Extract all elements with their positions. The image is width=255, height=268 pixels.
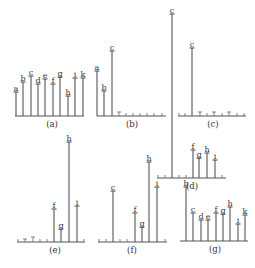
stem-i: i <box>155 179 160 243</box>
stem-f: f <box>191 142 196 179</box>
stem-label: d <box>35 76 40 85</box>
panel-f: cfghi(f) <box>98 154 167 256</box>
stem-label: h <box>66 134 71 143</box>
stem-label: d <box>198 212 203 221</box>
stem-label: g <box>58 221 63 230</box>
panel-caption: (e) <box>49 245 61 255</box>
stem-b: b <box>20 74 25 117</box>
stem-k: k <box>243 207 248 242</box>
stem-h: h <box>227 199 232 242</box>
panel-caption: (g) <box>209 244 221 254</box>
stem-label: h <box>146 154 151 163</box>
stem-c: c <box>191 205 196 242</box>
stem-label: i <box>156 179 159 188</box>
panel-caption: (f) <box>127 245 137 255</box>
stem-i: i <box>75 198 80 243</box>
stem-label: a <box>14 84 19 93</box>
stem-label: k <box>243 207 248 216</box>
stem-label: k <box>81 70 86 79</box>
stem-label: i <box>237 216 240 225</box>
stem-label: g <box>139 219 144 228</box>
stem-label: a <box>95 63 100 72</box>
stem-label: f <box>52 76 56 85</box>
stem-a: a <box>14 84 19 117</box>
stem-d: d <box>35 76 40 117</box>
stem-label: c <box>170 6 175 15</box>
stem-h: h <box>204 145 209 179</box>
stem-f: f <box>51 76 56 117</box>
stem-label: i <box>74 70 77 79</box>
panel-caption: (c) <box>207 119 218 129</box>
panel-caption: (b) <box>126 119 138 129</box>
stem-label: f <box>215 205 219 214</box>
stem-label: e <box>43 71 48 80</box>
stem-label: f <box>134 205 138 214</box>
stem-plots-svg: abcdefghik(a)abc(b)c(c)cfghi(d)fghi(e)cf… <box>0 0 255 268</box>
stem-i: i <box>73 70 78 117</box>
stem-c: c <box>170 6 175 179</box>
stem-label: g <box>220 206 225 215</box>
panel-c: c(c) <box>178 40 246 130</box>
stem-label: e <box>206 212 211 221</box>
stem-label: g <box>196 150 201 159</box>
stem-c: c <box>29 68 34 117</box>
stem-h: h <box>66 134 71 243</box>
stem-i: i <box>213 152 218 179</box>
stem-a: a <box>95 63 100 117</box>
stem-label: c <box>190 40 195 49</box>
panel-b: abc(b) <box>95 43 167 130</box>
stem-label: h <box>65 88 70 97</box>
stem-label: f <box>53 201 57 210</box>
stem-c: c <box>190 40 195 117</box>
stem-i: i <box>236 216 241 242</box>
stem-label: b <box>183 179 188 188</box>
stem-b: b <box>101 83 106 117</box>
stem-g: g <box>58 221 63 243</box>
stem-c: c <box>110 43 115 117</box>
stem-g: g <box>196 150 201 179</box>
panel-e: fghi(e) <box>17 134 85 256</box>
stem-label: c <box>110 43 115 52</box>
stem-e: e <box>206 212 211 242</box>
panel-caption: (a) <box>46 119 58 129</box>
stem-g: g <box>57 69 62 117</box>
stem-d: d <box>198 212 203 242</box>
stem-f: f <box>214 205 219 242</box>
stem-label: i <box>76 198 79 207</box>
stem-h: h <box>65 88 70 117</box>
stem-f: f <box>133 205 138 243</box>
stem-f: f <box>52 201 57 243</box>
stem-label: i <box>214 152 217 161</box>
stem-label: f <box>192 142 196 151</box>
stem-label: c <box>29 68 34 77</box>
panel-a: abcdefghik(a) <box>14 68 86 130</box>
stem-diagram-figure: abcdefghik(a)abc(b)c(c)cfghi(d)fghi(e)cf… <box>0 0 255 268</box>
stem-label: c <box>191 205 196 214</box>
stem-label: b <box>20 74 25 83</box>
stem-label: g <box>57 69 62 78</box>
stem-label: h <box>227 199 232 208</box>
stem-k: k <box>81 70 86 117</box>
stem-h: h <box>146 154 151 243</box>
stem-label: b <box>101 83 106 92</box>
stem-g: g <box>220 206 225 242</box>
stem-e: e <box>43 71 48 117</box>
stem-g: g <box>139 219 144 243</box>
stem-c: c <box>111 183 116 243</box>
stem-label: c <box>111 183 116 192</box>
stem-label: h <box>204 145 209 154</box>
